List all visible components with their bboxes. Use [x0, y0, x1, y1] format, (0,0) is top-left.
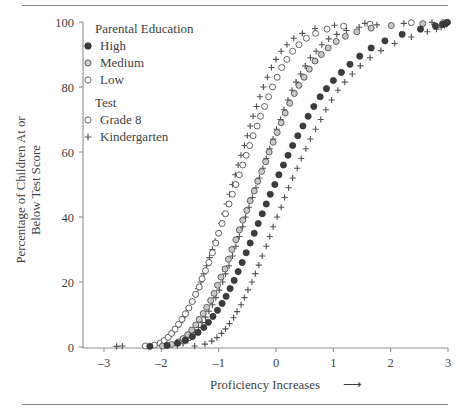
point-plus [226, 321, 232, 327]
point-open-circle [254, 123, 260, 129]
point-filled-circle [235, 269, 241, 275]
point-plus [392, 40, 398, 46]
point-open-circle [250, 133, 256, 139]
point-plus [273, 56, 279, 62]
x-tick-label-3: 3 [445, 356, 451, 370]
point-gray-circle [296, 82, 302, 88]
point-plus [342, 79, 348, 85]
point-plus [214, 334, 220, 340]
point-open-circle [189, 299, 195, 305]
y-tick-label-60: 60 [62, 146, 75, 160]
point-open-circle [236, 172, 242, 178]
point-gray-circle [388, 23, 394, 29]
point-open-circle [229, 191, 235, 197]
point-filled-circle [205, 319, 211, 325]
point-gray-circle [282, 110, 288, 116]
point-gray-circle [200, 311, 206, 317]
point-filled-circle [263, 201, 269, 207]
point-plus [267, 233, 273, 239]
point-gray-circle [274, 130, 280, 136]
point-gray-circle [312, 58, 318, 64]
point-open-circle [262, 104, 268, 110]
point-plus [253, 103, 259, 109]
point-open-circle [290, 48, 296, 54]
point-gray-circle [247, 198, 253, 204]
point-open-circle [182, 311, 188, 317]
point-plus [334, 31, 340, 37]
point-filled-circle [164, 342, 170, 348]
axis-frame [83, 22, 448, 348]
series-0 [114, 20, 368, 349]
point-gray-circle [325, 45, 331, 51]
legend-gray-circle-icon [85, 60, 91, 66]
point-gray-circle [196, 316, 202, 322]
point-gray-circle [222, 266, 228, 272]
y-axis-title-line1: Percentage of Children At or [14, 116, 28, 264]
point-open-circle [341, 23, 347, 29]
point-open-circle [313, 30, 319, 36]
point-filled-circle [311, 103, 317, 109]
point-plus [238, 302, 244, 308]
point-gray-circle [229, 247, 235, 253]
point-gray-circle [240, 217, 246, 223]
point-filled-circle [227, 285, 233, 291]
point-plus [282, 194, 288, 200]
legend-title-parental-education: Parental Education [95, 21, 194, 36]
point-filled-circle [255, 220, 261, 226]
point-gray-circle [287, 100, 293, 106]
point-plus [298, 155, 304, 161]
point-filled-circle [347, 61, 353, 67]
point-gray-circle [291, 91, 297, 97]
y-tick-label-40: 40 [62, 211, 75, 225]
point-plus [209, 338, 215, 344]
point-open-circle [279, 65, 285, 71]
point-plus [286, 185, 292, 191]
point-plus [290, 175, 296, 181]
point-filled-circle [323, 86, 329, 92]
point-filled-circle [276, 172, 282, 178]
point-filled-circle [210, 313, 216, 319]
point-plus [234, 308, 240, 314]
point-gray-circle [266, 149, 272, 155]
point-open-circle [303, 35, 309, 41]
point-open-circle [186, 305, 192, 311]
point-filled-circle [189, 334, 195, 340]
point-filled-circle [300, 123, 306, 129]
point-open-circle [193, 291, 199, 297]
y-tick-label-100: 100 [55, 16, 74, 30]
point-filled-circle [432, 23, 438, 29]
x-tick-label--1: –1 [211, 356, 225, 370]
point-filled-circle [195, 329, 201, 335]
point-gray-circle [189, 327, 195, 333]
x-tick-label-2: 2 [388, 356, 394, 370]
point-open-circle [213, 240, 219, 246]
point-plus [270, 224, 276, 230]
point-open-circle [270, 84, 276, 90]
point-gray-circle [211, 290, 217, 296]
point-gray-circle [318, 52, 324, 58]
point-plus [250, 113, 256, 119]
point-plus [349, 71, 355, 77]
point-gray-circle [270, 139, 276, 145]
point-open-circle [196, 284, 202, 290]
point-plus [408, 34, 414, 40]
point-filled-circle [239, 259, 245, 265]
point-plus [307, 136, 313, 142]
point-open-circle [258, 113, 264, 119]
legend-open-circle-icon [85, 77, 91, 83]
point-gray-circle [278, 120, 284, 126]
point-gray-circle [368, 25, 374, 31]
point-open-circle [284, 56, 290, 62]
point-filled-circle [182, 337, 188, 343]
figure-container: 020406080100–3–2–10123 Proficiency Incre… [0, 0, 466, 413]
point-gray-circle [263, 159, 269, 165]
point-plus [257, 94, 263, 100]
legend-label-kindergarten: Kindergarten [100, 129, 169, 144]
point-filled-circle [330, 77, 336, 83]
point-plus [294, 165, 300, 171]
x-tick-label--2: –2 [154, 356, 168, 370]
point-filled-circle [280, 162, 286, 168]
point-filled-circle [357, 53, 363, 59]
legend-filled-circle-icon [85, 43, 92, 50]
point-plus [291, 35, 297, 41]
